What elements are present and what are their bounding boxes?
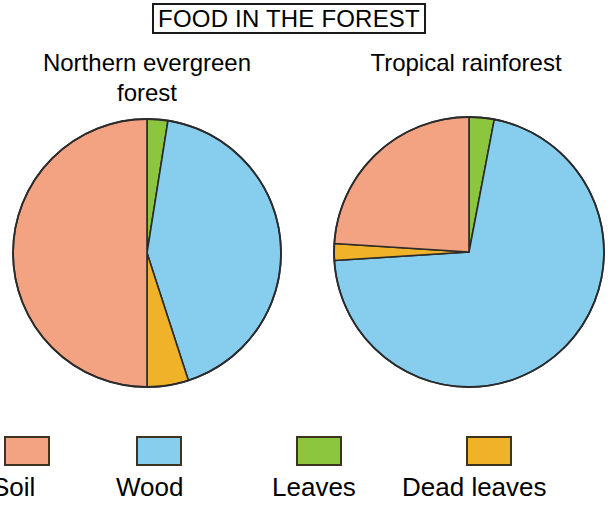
legend-label-soil: Soil (0, 472, 50, 502)
pie-slice-soil (13, 119, 147, 387)
legend-item-soil: Soil (4, 436, 50, 502)
legend-item-leaves: Leaves (296, 436, 356, 502)
chart-title-box: FOOD IN THE FOREST (152, 3, 426, 34)
pie-slice-soil (334, 117, 469, 252)
pie-chart-svg-northern-evergreen-forest (11, 117, 283, 389)
chart-caption-northern-evergreen-forest: Northern evergreen forest (2, 48, 292, 108)
legend-label-leaves: Leaves (272, 472, 356, 502)
legend-swatch-wood (136, 436, 182, 466)
pie-chart-tropical-rainforest (332, 115, 606, 389)
chart-caption-tropical-rainforest: Tropical rainforest (318, 48, 614, 78)
legend-item-dead-leaves: Dead leaves (466, 436, 547, 502)
legend-item-wood: Wood (136, 436, 183, 502)
legend: Soil Wood Leaves Dead leaves (0, 436, 614, 509)
legend-swatch-leaves (296, 436, 342, 466)
pie-chart-svg-tropical-rainforest (332, 115, 606, 389)
page-title: FOOD IN THE FOREST (158, 6, 420, 32)
legend-swatch-dead-leaves (466, 436, 512, 466)
pie-chart-northern-evergreen-forest (11, 117, 283, 389)
legend-swatch-soil (4, 436, 50, 466)
legend-label-dead-leaves: Dead leaves (402, 472, 547, 502)
legend-label-wood: Wood (116, 472, 183, 502)
